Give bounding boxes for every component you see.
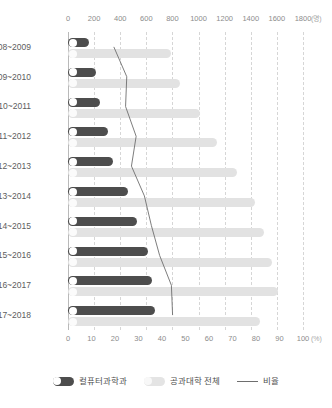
bottom-axis-tick-label: 60 <box>205 334 213 344</box>
top-axis-tick-label: 600 <box>140 14 153 24</box>
top-axis-tick-label: 200 <box>88 14 101 24</box>
top-axis-tick-label: 1200 <box>216 14 233 24</box>
top-axis-tick-label: 1600 <box>269 14 286 24</box>
bottom-axis-tick-label: 100 <box>297 334 310 344</box>
row-category-label: 2013~2014 <box>0 191 31 201</box>
legend-label: 컬퓨터과학과 <box>79 376 127 386</box>
bar-knob-icon <box>53 377 61 385</box>
row-category-label: 2011~2012 <box>0 131 31 141</box>
ratio-line-series <box>68 32 303 330</box>
row-category-label: 2008~2009 <box>0 42 31 52</box>
bottom-axis-tick-label: 20 <box>111 334 119 344</box>
bottom-axis-tick-label: 10 <box>87 334 95 344</box>
legend-line-icon <box>237 381 258 382</box>
row-category-label: 2014~2015 <box>0 221 31 231</box>
legend-item[interactable]: 컬퓨터과학과 <box>53 376 127 386</box>
bottom-axis-unit-label: (%) <box>311 334 322 344</box>
bottom-axis-tick-label: 70 <box>228 334 236 344</box>
top-axis-tick-label: 0 <box>66 14 70 24</box>
bottom-axis-tick-label: 80 <box>252 334 260 344</box>
top-axis-tick-label: 800 <box>166 14 179 24</box>
row-category-label: 2017~2018 <box>0 310 31 320</box>
row-category-label: 2015~2016 <box>0 250 31 260</box>
bottom-axis-tick-label: 90 <box>275 334 283 344</box>
chart-container: 020040060080010001200140016001800(명) 200… <box>0 0 332 408</box>
legend-label: 비율 <box>263 376 279 386</box>
legend-swatch-icon <box>144 377 165 386</box>
top-axis: 020040060080010001200140016001800(명) <box>68 14 303 28</box>
top-axis-tick-label: 1400 <box>242 14 259 24</box>
legend-item[interactable]: 비율 <box>237 376 279 386</box>
row-category-label: 2009~2010 <box>0 72 31 82</box>
bottom-axis-tick-label: 50 <box>181 334 189 344</box>
ratio-polyline <box>114 47 173 315</box>
row-category-label: 2010~2011 <box>0 101 31 111</box>
bottom-axis-tick-label: 40 <box>158 334 166 344</box>
legend-swatch-icon <box>53 377 74 386</box>
bar-knob-icon <box>144 377 152 385</box>
gridline <box>303 32 304 330</box>
top-axis-tick-label: 1000 <box>190 14 207 24</box>
row-category-label: 2012~2013 <box>0 161 31 171</box>
top-axis-tick-label: 1800 <box>295 14 312 24</box>
top-axis-tick-label: 400 <box>114 14 127 24</box>
legend-label: 공과대학 전체 <box>170 376 220 386</box>
chart-legend: 컬퓨터과학과공과대학 전체비율 <box>0 376 332 386</box>
bottom-axis-tick-label: 0 <box>66 334 70 344</box>
legend-item[interactable]: 공과대학 전체 <box>144 376 220 386</box>
bottom-axis: 0102030405060708090100(%) <box>68 334 303 348</box>
row-category-label: 2016~2017 <box>0 280 31 290</box>
bottom-axis-tick-label: 30 <box>134 334 142 344</box>
top-axis-unit-label: (명) <box>311 14 322 24</box>
plot-area: 2008~20092009~20102010~20112011~20122012… <box>68 32 303 330</box>
